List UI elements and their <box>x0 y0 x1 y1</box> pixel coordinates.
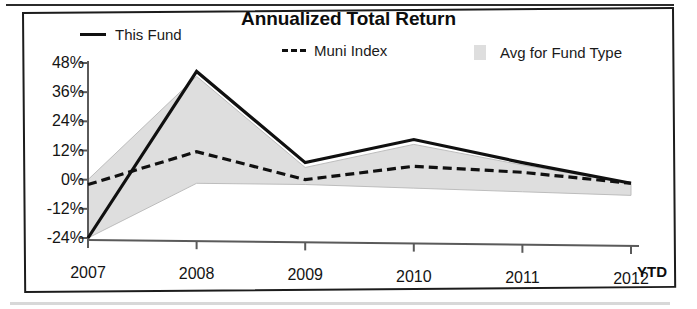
y-axis-tick-label: 24% <box>26 113 84 129</box>
x-axis-tick-label: 2008 <box>179 265 215 283</box>
y-axis-tick-label: -24% <box>26 230 84 246</box>
y-axis-tick-label: 12% <box>26 143 84 159</box>
x-axis-ytd-label: YTD <box>637 263 667 280</box>
x-axis-tick-label: 2009 <box>287 266 323 284</box>
x-axis-tick-label: 2007 <box>70 264 106 282</box>
y-axis-tick-label: 0% <box>26 172 84 188</box>
x-axis-tick-label: 2011 <box>505 269 539 287</box>
y-axis-tick-label: -12% <box>26 201 84 217</box>
avg-for-fund-type-band <box>88 76 631 238</box>
x-axis-tick-labels: 200720082009201020112012 <box>0 258 697 286</box>
x-axis-tick-label: 2010 <box>396 268 432 286</box>
y-axis-tick-label: 48% <box>26 55 84 71</box>
y-axis-tick-label: 36% <box>26 84 84 100</box>
